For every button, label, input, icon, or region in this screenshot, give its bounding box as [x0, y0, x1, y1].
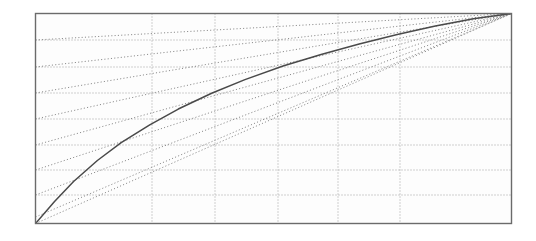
chart-canvas: [0, 0, 536, 241]
figure-container: [0, 0, 536, 241]
